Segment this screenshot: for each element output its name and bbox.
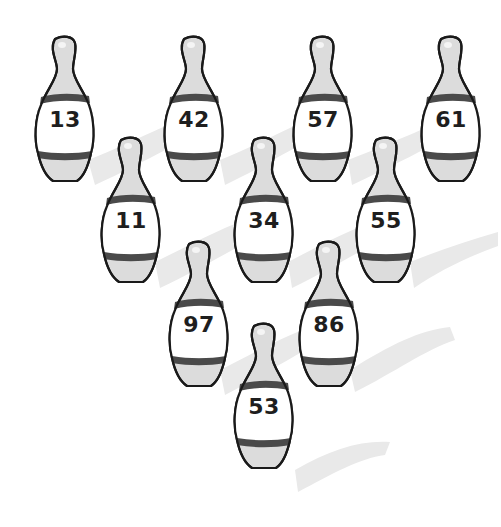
pin-number: 34 (232, 208, 296, 234)
bowling-pin-53: 53 (232, 322, 296, 470)
pin-number: 13 (33, 107, 97, 133)
pin-number: 86 (297, 312, 361, 338)
pin-number: 57 (291, 107, 355, 133)
bowling-pin-11: 11 (99, 136, 163, 284)
bowling-pin-13: 13 (33, 35, 97, 183)
bowling-pin-97: 97 (167, 240, 231, 388)
bowling-pin-57: 57 (291, 35, 355, 183)
pin-number: 42 (162, 107, 226, 133)
pin-number: 53 (232, 394, 296, 420)
bowling-pin-55: 55 (354, 136, 418, 284)
bowling-pins-illustration: 13 42 57 61 (0, 0, 501, 527)
bowling-pin-61: 61 (419, 35, 483, 183)
pin-number: 11 (99, 208, 163, 234)
bowling-pin-86: 86 (297, 240, 361, 388)
bowling-pin-42: 42 (162, 35, 226, 183)
pin-number: 55 (354, 208, 418, 234)
bowling-pin-34: 34 (232, 136, 296, 284)
pin-number: 61 (419, 107, 483, 133)
pin-number: 97 (167, 312, 231, 338)
